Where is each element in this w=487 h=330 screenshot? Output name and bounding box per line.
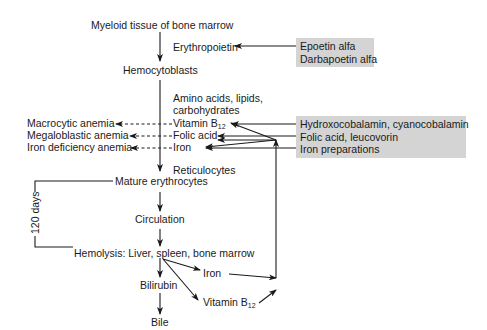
node-erythropoietin: Erythropoietin [173, 41, 238, 53]
node-myeloid-tissue: Myeloid tissue of bone marrow [91, 19, 233, 31]
node-nutrients-line1: Amino acids, lipids, [173, 92, 263, 104]
drug-box-nutrients: Hydroxocobalamin, cyanocobalamin Folic a… [296, 116, 466, 158]
vitamin-b12-subscript: 12 [218, 123, 226, 130]
node-mature-erythrocytes: Mature erythrocytes [115, 175, 208, 187]
anemia-macrocytic: Macrocytic anemia [27, 117, 115, 129]
recycled-b12-label: Vitamin B [203, 296, 248, 308]
node-bile: Bile [151, 316, 169, 328]
drug-folic-acid: Folic acid, leucovorin [300, 131, 462, 144]
anemia-iron-deficiency: Iron deficiency anemia [27, 141, 132, 153]
erythropoiesis-diagram: Myeloid tissue of bone marrow Erythropoi… [0, 0, 487, 330]
node-iron: Iron [173, 141, 191, 153]
recycled-b12-subscript: 12 [248, 302, 256, 309]
node-hemolysis: Hemolysis: Liver, spleen, bone marrow [74, 247, 254, 259]
node-bilirubin: Bilirubin [140, 279, 177, 291]
node-hemocytoblasts: Hemocytoblasts [123, 64, 198, 76]
anemia-megaloblastic: Megaloblastic anemia [27, 129, 129, 141]
drug-hydroxocobalamin: Hydroxocobalamin, cyanocobalamin [300, 118, 462, 131]
node-nutrients-line2: carbohydrates [173, 104, 240, 116]
drug-darbapoetin-alfa: Darbapoetin alfa [300, 53, 370, 66]
drug-epoetin-alfa: Epoetin alfa [300, 40, 370, 53]
node-folic-acid: Folic acid [173, 129, 217, 141]
node-recycled-iron: Iron [203, 267, 221, 279]
connector-lines [0, 0, 487, 330]
lifespan-label: 120 days [29, 191, 41, 234]
vitamin-b12-label: Vitamin B [173, 117, 218, 129]
node-vitamin-b12: Vitamin B12 [173, 117, 226, 129]
node-recycled-vitamin-b12: Vitamin B12 [203, 296, 256, 308]
node-circulation: Circulation [135, 213, 185, 225]
drug-iron-preparations: Iron preparations [300, 143, 462, 156]
drug-box-erythropoietin: Epoetin alfa Darbapoetin alfa [296, 38, 374, 67]
